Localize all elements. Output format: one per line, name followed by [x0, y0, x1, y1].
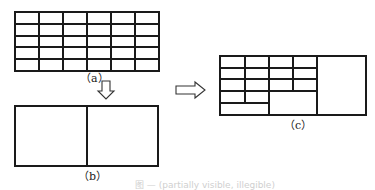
- panel-a-grid: [15, 12, 159, 71]
- figure-caption: 图 — (partially visible, illegible): [135, 180, 275, 190]
- panel-b-grid: [15, 106, 158, 166]
- diagram-canvas: （a） （b） （c） 图 — (partially visible, ille…: [0, 0, 375, 190]
- panel-b-label: （b）: [78, 170, 107, 183]
- panel-c-grid: [220, 56, 366, 115]
- panel-c-label: （c）: [284, 119, 312, 132]
- right-arrow-icon: [176, 82, 205, 98]
